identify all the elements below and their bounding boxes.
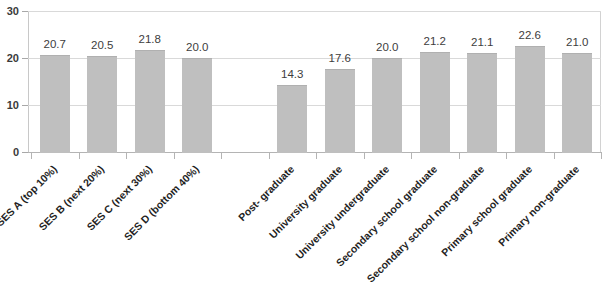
bar-value-label: 20.7 bbox=[44, 38, 66, 50]
bar bbox=[135, 50, 165, 153]
bar bbox=[40, 55, 70, 153]
bar bbox=[467, 53, 497, 153]
x-tick-mark-5 bbox=[269, 152, 270, 159]
bar-value-label: 21.8 bbox=[139, 33, 161, 45]
x-tick-mark-9 bbox=[459, 152, 460, 159]
bar-value-label: 17.6 bbox=[329, 52, 351, 64]
x-tick-mark-11 bbox=[554, 152, 555, 159]
bar-value-label: 21.0 bbox=[566, 36, 588, 48]
y-axis-label-0: 0 bbox=[0, 146, 19, 158]
bar bbox=[372, 58, 402, 153]
y-axis-label-30: 30 bbox=[0, 5, 19, 17]
bar-value-label: 22.6 bbox=[519, 29, 541, 41]
x-tick-mark-7 bbox=[364, 152, 365, 159]
x-tick-mark-12 bbox=[601, 152, 602, 159]
bar-value-label: 14.3 bbox=[281, 68, 303, 80]
bar bbox=[420, 52, 450, 153]
bar-value-label: 21.1 bbox=[471, 36, 493, 48]
x-tick-mark-6 bbox=[316, 152, 317, 159]
plot-right-border bbox=[600, 11, 601, 152]
bar bbox=[87, 56, 117, 153]
y-axis-label-20: 20 bbox=[0, 52, 19, 64]
bar bbox=[515, 46, 545, 153]
x-tick-mark-1 bbox=[79, 152, 80, 159]
y-tick-mark-10 bbox=[22, 105, 28, 106]
bar-chart: 0102030 20.720.521.820.014.317.620.021.2… bbox=[0, 0, 611, 304]
x-tick-mark-10 bbox=[506, 152, 507, 159]
x-tick-mark-2 bbox=[126, 152, 127, 159]
x-tick-mark-8 bbox=[411, 152, 412, 159]
y-tick-mark-20 bbox=[22, 58, 28, 59]
gridline-30 bbox=[28, 11, 601, 12]
y-tick-mark-0 bbox=[22, 152, 28, 153]
bar bbox=[325, 69, 355, 153]
bar-value-label: 20.0 bbox=[186, 41, 208, 53]
x-tick-mark-0 bbox=[31, 152, 32, 159]
bar bbox=[562, 53, 592, 153]
x-tick-mark-4 bbox=[221, 152, 222, 159]
bar bbox=[182, 58, 212, 153]
y-tick-mark-30 bbox=[22, 11, 28, 12]
y-axis-line bbox=[28, 11, 29, 152]
bar-value-label: 21.2 bbox=[424, 35, 446, 47]
bar-value-label: 20.0 bbox=[376, 41, 398, 53]
y-axis-label-10: 10 bbox=[0, 99, 19, 111]
bar-value-label: 20.5 bbox=[91, 39, 113, 51]
x-tick-mark-3 bbox=[174, 152, 175, 159]
bar bbox=[277, 85, 307, 153]
